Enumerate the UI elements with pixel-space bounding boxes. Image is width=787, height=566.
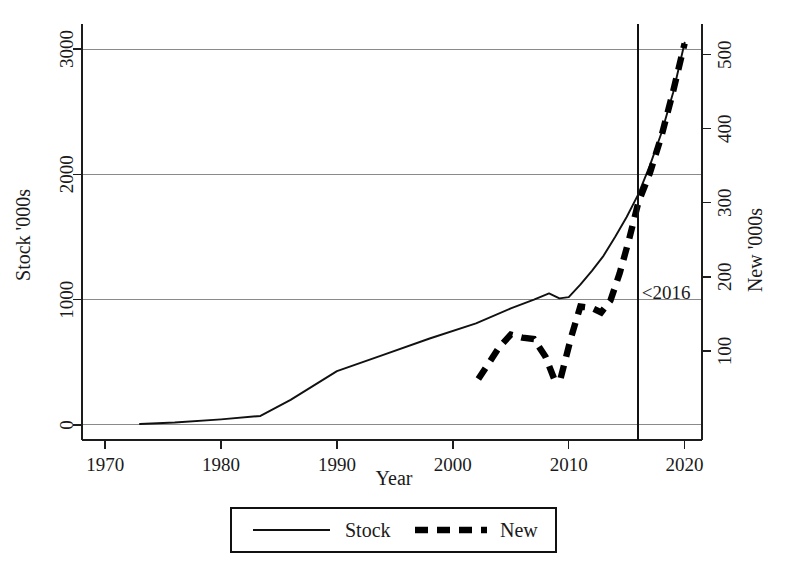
chart-legend: Stock New	[231, 508, 556, 552]
y2-tick-label-300: 300	[714, 189, 735, 218]
x-axis-title: Year	[376, 467, 413, 489]
y-tick-label-3000: 3000	[56, 30, 77, 68]
y-tick-label-1000: 1000	[56, 281, 77, 319]
y-axis-right-ticks: 100200300400500	[702, 40, 735, 365]
x-tick-label-2000: 2000	[434, 454, 472, 475]
y2-tick-label-200: 200	[714, 263, 735, 292]
y-tick-label-2000: 2000	[56, 155, 77, 193]
data-series	[140, 43, 685, 424]
y2-tick-label-100: 100	[714, 337, 735, 366]
chart-annotations: <2016	[638, 24, 690, 440]
x-tick-label-2020: 2020	[666, 454, 704, 475]
x-tick-label-1980: 1980	[202, 454, 240, 475]
series-line-new	[478, 44, 684, 381]
legend-label-new: New	[500, 519, 538, 541]
x-tick-label-1970: 1970	[86, 454, 124, 475]
line-chart: 197019801990200020102020 0100020003000 1…	[0, 0, 787, 566]
y-axis-right-title: New '000s	[744, 208, 766, 292]
y2-tick-label-400: 400	[714, 114, 735, 143]
x-tick-label-2010: 2010	[550, 454, 588, 475]
gridlines	[82, 49, 702, 425]
chart-figure: 197019801990200020102020 0100020003000 1…	[0, 0, 787, 566]
axes	[82, 24, 702, 440]
y-axis-left-ticks: 0100020003000	[56, 30, 82, 430]
y-axis-left-title: Stock '000s	[12, 189, 34, 281]
y2-tick-label-500: 500	[714, 40, 735, 69]
legend-label-stock: Stock	[345, 519, 391, 541]
reference-line-2016-label: <2016	[642, 282, 691, 303]
y-tick-label-0: 0	[56, 420, 77, 430]
series-line-stock	[140, 43, 685, 424]
x-tick-label-1990: 1990	[318, 454, 356, 475]
